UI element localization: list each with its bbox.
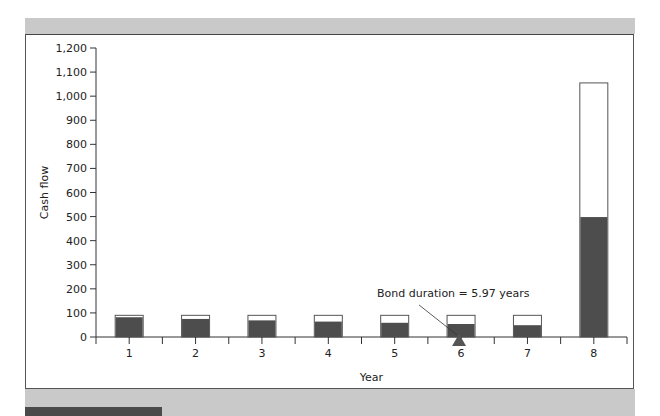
present-value-bar [116,317,143,337]
chart-frame: 01002003004005006007008009001,0001,1001,… [25,34,634,389]
x-tick-label: 6 [458,347,465,360]
x-tick-label: 2 [192,347,199,360]
y-tick-label: 500 [66,211,87,224]
bar-chart: 01002003004005006007008009001,0001,1001,… [26,35,633,388]
present-value-bar [580,217,607,337]
y-tick-label: 100 [66,307,87,320]
y-tick-label: 0 [80,331,87,344]
top-banner [25,18,635,34]
x-tick-label: 5 [391,347,398,360]
x-tick-label: 4 [325,347,332,360]
y-tick-label: 900 [66,114,87,127]
y-tick-label: 800 [66,138,87,151]
y-tick-label: 300 [66,259,87,272]
x-tick-label: 7 [524,347,531,360]
y-tick-label: 1,200 [56,42,88,55]
y-tick-label: 400 [66,235,87,248]
x-tick-label: 1 [126,347,133,360]
x-tick-label: 8 [590,347,597,360]
present-value-bar [182,319,209,337]
present-value-bar [248,320,275,337]
bottom-tab [25,407,162,416]
present-value-bar [315,322,342,337]
y-tick-label: 600 [66,187,87,200]
y-tick-label: 1,000 [56,90,88,103]
y-tick-label: 1,100 [56,66,88,79]
x-tick-label: 3 [258,347,265,360]
present-value-bar [381,323,408,337]
x-axis-label: Year [359,371,384,384]
y-tick-label: 200 [66,283,87,296]
present-value-bar [514,325,541,337]
duration-annotation: Bond duration = 5.97 years [377,287,530,300]
y-tick-label: 700 [66,162,87,175]
y-axis-label: Cash flow [38,166,51,219]
